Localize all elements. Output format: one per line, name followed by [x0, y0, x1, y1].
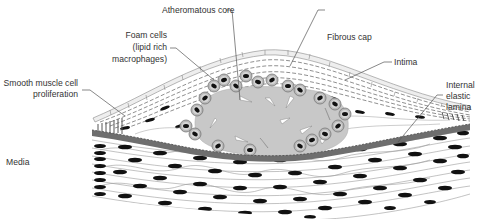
label-intima: Intima [394, 57, 418, 67]
label-smooth-muscle-2: proliferation [33, 89, 78, 99]
label-foam-cells-1: Foam cells [125, 30, 167, 40]
label-internal-elastic-3: lamina [446, 102, 472, 112]
label-foam-cells-2: (lipid rich [133, 42, 168, 52]
label-smooth-muscle-1: Smooth muscle cell [3, 78, 78, 88]
label-foam-cells-3: macrophages) [112, 54, 167, 64]
label-internal-elastic-1: Internal [446, 80, 475, 90]
label-internal-elastic-2: elastic [446, 91, 471, 101]
label-media: Media [6, 157, 30, 167]
atherosclerotic-plaque-diagram: Atheromatous core Foam cells (lipid rich… [0, 0, 482, 224]
label-fibrous-cap: Fibrous cap [327, 32, 372, 42]
label-atheromatous-core: Atheromatous core [162, 5, 235, 15]
